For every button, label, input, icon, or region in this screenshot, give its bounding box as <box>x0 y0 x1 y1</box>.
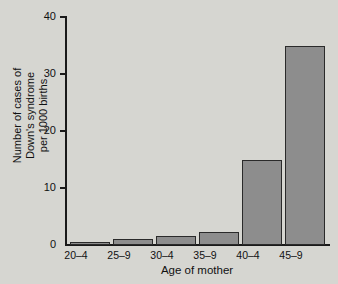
bar-20-4 <box>70 242 110 245</box>
plot-area <box>66 17 328 245</box>
y-axis-title-line-2: Down's syndrome <box>24 40 37 192</box>
y-axis-tick-label-30: 30 <box>24 68 56 79</box>
y-axis-tick-label-40: 40 <box>24 11 56 22</box>
bar-40-4 <box>242 160 282 246</box>
bar-35-9 <box>199 232 239 245</box>
x-axis-title: Age of mother <box>66 264 328 276</box>
bar-25-9 <box>113 239 153 245</box>
x-axis-tick-label-5: 45–9 <box>261 249 321 261</box>
y-axis-tick-label-20: 20 <box>24 125 56 136</box>
y-axis-title-line-3: per 1000 births <box>37 40 50 192</box>
bar-45-9 <box>285 46 325 246</box>
y-axis-title-line-1: Number of cases of <box>11 40 24 192</box>
downs-syndrome-bar-chart: Number of cases of Down's syndrome per 1… <box>0 0 338 284</box>
bar-30-4 <box>156 236 196 245</box>
y-axis-tick-label-10: 10 <box>24 182 56 193</box>
y-axis-title: Number of cases of Down's syndrome per 1… <box>11 40 50 192</box>
